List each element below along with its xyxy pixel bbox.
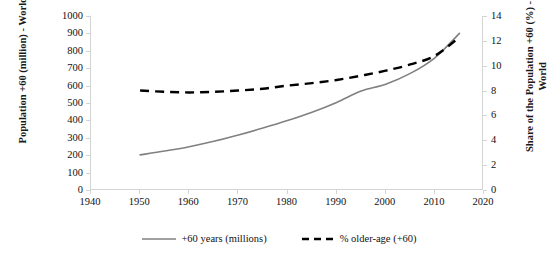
- chart-figure: Population +60 (million) - World Share o…: [0, 0, 559, 259]
- y-tick-label-right: 0: [491, 184, 496, 195]
- y-tick-mark-left: [86, 33, 90, 34]
- series-line-population: [140, 33, 459, 154]
- right-axis-title: Share of the Population +60 (%) - World: [524, 0, 549, 162]
- y-tick-mark-right: [483, 41, 487, 42]
- y-tick-mark-right: [483, 140, 487, 141]
- plot-area: [90, 16, 483, 190]
- y-tick-label-right: 6: [491, 109, 496, 120]
- y-tick-label-left: 100: [67, 167, 83, 178]
- x-tick-label: 1960: [166, 196, 210, 207]
- x-tick-label: 2000: [363, 196, 407, 207]
- y-tick-mark-right: [483, 91, 487, 92]
- x-tick-mark: [90, 190, 91, 194]
- y-tick-mark-right: [483, 115, 487, 116]
- y-tick-label-right: 4: [491, 134, 496, 145]
- y-tick-label-left: 400: [67, 114, 83, 125]
- y-tick-mark-left: [86, 138, 90, 139]
- y-tick-mark-left: [86, 86, 90, 87]
- y-tick-label-left: 500: [67, 97, 83, 108]
- y-tick-label-right: 2: [491, 159, 496, 170]
- y-tick-label-right: 12: [491, 35, 502, 46]
- legend-item-population[interactable]: +60 years (millions): [142, 233, 266, 245]
- x-tick-mark: [188, 190, 189, 194]
- y-tick-mark-left: [86, 16, 90, 17]
- y-tick-mark-right: [483, 16, 487, 17]
- y-tick-label-left: 300: [67, 132, 83, 143]
- y-tick-mark-left: [86, 173, 90, 174]
- y-tick-label-left: 0: [78, 184, 83, 195]
- x-tick-label: 2020: [461, 196, 505, 207]
- x-tick-mark: [287, 190, 288, 194]
- x-tick-mark: [385, 190, 386, 194]
- legend-item-share[interactable]: % older-age (+60): [301, 233, 417, 245]
- legend-label-population: +60 years (millions): [181, 233, 266, 245]
- y-tick-mark-left: [86, 155, 90, 156]
- x-tick-label: 1990: [314, 196, 358, 207]
- y-tick-label-right: 8: [491, 85, 496, 96]
- y-tick-label-left: 200: [67, 149, 83, 160]
- y-tick-mark-right: [483, 66, 487, 67]
- x-tick-mark: [336, 190, 337, 194]
- y-tick-label-right: 10: [491, 60, 502, 71]
- legend-swatch-dashed: [301, 234, 335, 244]
- x-tick-label: 1950: [117, 196, 161, 207]
- y-tick-mark-right: [483, 165, 487, 166]
- x-tick-mark: [434, 190, 435, 194]
- x-tick-label: 1940: [68, 196, 112, 207]
- x-tick-label: 2010: [412, 196, 456, 207]
- y-tick-mark-right: [483, 190, 487, 191]
- y-tick-label-left: 1000: [62, 10, 83, 21]
- x-tick-mark: [237, 190, 238, 194]
- y-tick-mark-left: [86, 51, 90, 52]
- y-tick-label-left: 800: [67, 45, 83, 56]
- series-line-share: [140, 37, 459, 92]
- y-tick-mark-left: [86, 120, 90, 121]
- y-tick-mark-left: [86, 190, 90, 191]
- legend-label-share: % older-age (+60): [340, 233, 417, 245]
- legend-swatch-solid: [142, 234, 176, 244]
- chart-legend: +60 years (millions) % older-age (+60): [0, 230, 559, 248]
- y-tick-label-left: 700: [67, 62, 83, 73]
- x-tick-mark: [139, 190, 140, 194]
- x-tick-label: 1980: [265, 196, 309, 207]
- x-tick-label: 1970: [215, 196, 259, 207]
- y-tick-mark-left: [86, 68, 90, 69]
- y-tick-mark-left: [86, 103, 90, 104]
- y-tick-label-left: 900: [67, 27, 83, 38]
- left-axis-title: Population +60 (million) - World: [17, 0, 30, 155]
- y-tick-label-right: 14: [491, 10, 502, 21]
- y-tick-label-left: 600: [67, 80, 83, 91]
- series-canvas: [91, 16, 484, 190]
